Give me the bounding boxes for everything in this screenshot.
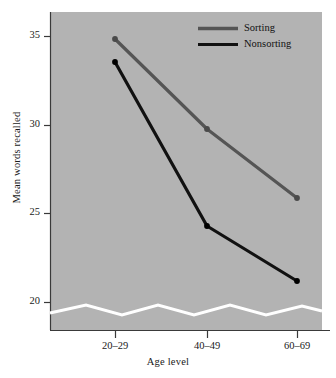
x-axis-ticks bbox=[116, 330, 298, 338]
sorting-point-40-49 bbox=[204, 126, 210, 132]
y-tick-label-20: 20 bbox=[14, 295, 40, 306]
sorting-point-60-69 bbox=[294, 195, 300, 201]
nonsorting-point-40-49 bbox=[204, 223, 210, 229]
sorting-point-20-29 bbox=[112, 36, 118, 42]
x-tick-label-20-29: 20–29 bbox=[85, 340, 145, 351]
nonsorting-point-20-29 bbox=[112, 59, 118, 65]
x-axis-title: Age level bbox=[0, 356, 336, 367]
y-tick-label-35: 35 bbox=[14, 29, 40, 40]
x-tick-label-40-49: 40–49 bbox=[177, 340, 237, 351]
x-tick-label-60-69: 60–69 bbox=[267, 340, 327, 351]
legend-label-nonsorting: Nonsorting bbox=[244, 38, 291, 49]
nonsorting-point-60-69 bbox=[294, 278, 300, 284]
legend-label-sorting: Sorting bbox=[244, 22, 275, 33]
line-chart bbox=[0, 0, 336, 378]
plot-background bbox=[50, 12, 322, 330]
y-axis-ticks bbox=[44, 37, 50, 303]
figure: Sorting Nonsorting 35 30 25 20 20–29 40–… bbox=[0, 0, 336, 378]
y-axis-title: Mean words recalled bbox=[11, 88, 22, 228]
